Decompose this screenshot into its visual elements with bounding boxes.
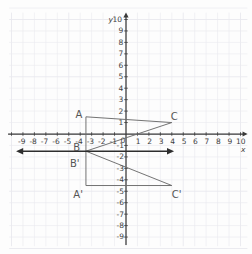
y-tick-label: 10	[113, 16, 123, 24]
y-tick-label: -2	[117, 153, 124, 161]
y-tick-label: -1	[117, 142, 124, 150]
coordinate-plane-figure: -9-8-7-6-5-4-3-2-11234567891001098765432…	[0, 0, 252, 254]
y-tick-label: -6	[117, 199, 124, 207]
y-tick-label: 2	[119, 108, 124, 116]
x-tick-label: 6	[193, 138, 198, 146]
vertex-label-a: A	[76, 110, 83, 120]
x-tick-label: 4	[170, 138, 175, 146]
vertex-label-b: B	[73, 143, 80, 153]
x-tick-label: 2	[147, 138, 152, 146]
y-tick-label: -4	[117, 176, 124, 184]
y-tick-label: -5	[117, 188, 124, 196]
x-tick-label: 7	[205, 138, 210, 146]
line-of-reflection-arrow-left	[16, 148, 23, 155]
x-tick-label: 9	[227, 138, 232, 146]
y-tick-label: -7	[117, 211, 124, 219]
y-tick-label: 3	[119, 96, 124, 104]
y-tick-label: 6	[119, 62, 124, 70]
graph-canvas	[0, 0, 252, 254]
x-tick-label: 10	[236, 138, 246, 146]
y-tick-label: 1	[119, 119, 124, 127]
vertex-label-c-prime: C'	[172, 190, 182, 200]
y-tick-label: -3	[117, 165, 124, 173]
vertex-label-c: C	[171, 112, 178, 122]
x-axis-name: x	[241, 146, 245, 154]
x-tick-label: -5	[64, 138, 71, 146]
x-tick-label: -3	[87, 138, 94, 146]
y-axis-name: y	[109, 16, 113, 24]
x-tick-label: 8	[216, 138, 221, 146]
y-tick-label: 4	[119, 85, 124, 93]
vertex-label-b-prime: B'	[70, 159, 80, 169]
y-tick-label: 5	[119, 73, 124, 81]
x-tick-label: 1	[136, 138, 141, 146]
y-tick-label: -9	[117, 233, 124, 241]
y-tick-label: 8	[119, 39, 124, 47]
y-tick-label: 7	[119, 50, 124, 58]
x-tick-label: -6	[52, 138, 59, 146]
x-tick-label: -7	[41, 138, 48, 146]
x-axis-arrowhead	[243, 131, 248, 136]
x-tick-label: 3	[159, 138, 164, 146]
x-tick-label: 5	[182, 138, 187, 146]
y-axis-arrowhead	[123, 12, 128, 17]
x-tick-label: -8	[29, 138, 36, 146]
vertex-label-a-prime: A'	[73, 190, 83, 200]
x-tick-label: -9	[18, 138, 25, 146]
line-of-reflection-arrow-right	[167, 148, 174, 155]
x-tick-label: -2	[98, 138, 105, 146]
y-tick-label: 9	[119, 27, 124, 35]
y-tick-label: -8	[117, 222, 124, 230]
